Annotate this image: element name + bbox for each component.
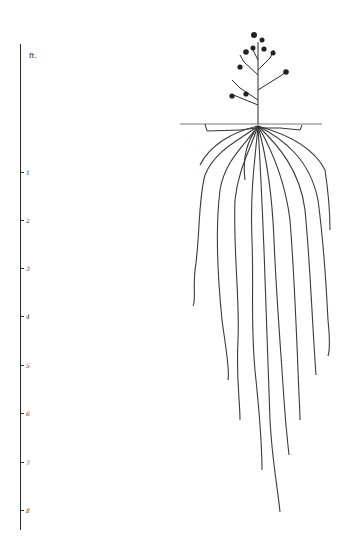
flower-heads (229, 32, 288, 99)
stem-and-shoots (232, 42, 288, 124)
plant-illustration (0, 0, 346, 548)
roots (193, 126, 330, 512)
